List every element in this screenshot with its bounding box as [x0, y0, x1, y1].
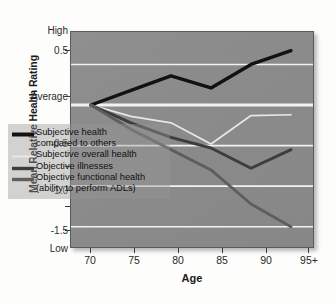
x-tick-mark-85: [222, 248, 223, 253]
y-tick-label-neg1-5: -1.5: [8, 225, 68, 236]
legend-label-0: Subjective health compared to others: [36, 127, 116, 148]
legend-swatch-cell-2: [10, 161, 36, 171]
chart-legend: Subjective health compared to others Sub…: [8, 124, 170, 199]
legend-label-2: Objective illnesses: [36, 161, 113, 172]
x-tick-label-80: 80: [158, 254, 198, 266]
y-tick-label-average: Average: [8, 91, 68, 102]
x-tick-mark-70: [90, 248, 91, 253]
series-line-0: [91, 51, 291, 105]
x-tick-label-95: 95+: [289, 254, 329, 266]
x-tick-mark-90: [266, 248, 267, 253]
x-tick-mark-95: [308, 248, 309, 253]
x-tick-label-75: 75: [114, 254, 154, 266]
x-tick-mark-75: [134, 248, 135, 253]
y-tick-label-low: Low: [8, 243, 68, 254]
x-tick-label-85: 85: [202, 254, 242, 266]
legend-line-icon-3: [12, 177, 34, 182]
y-tick-label-high: High: [8, 25, 68, 36]
legend-line-icon-1: [12, 154, 34, 159]
x-tick-label-70: 70: [70, 254, 110, 266]
legend-swatch-cell-3: [10, 172, 36, 182]
y-tick-label-0-5: 0.5: [8, 45, 68, 56]
legend-swatch-cell-0: [10, 127, 36, 137]
x-tick-label-90: 90: [246, 254, 286, 266]
legend-line-icon-0: [12, 132, 34, 137]
legend-label-1: Subjective overall health: [36, 149, 137, 160]
legend-label-3: Objective functional health (ability to …: [36, 172, 145, 193]
chart-figure: Mean Relative Health Rating High 0.5 Ave…: [0, 0, 336, 304]
x-axis-title: Age: [70, 272, 314, 284]
x-tick-mark-80: [178, 248, 179, 253]
legend-item-objective-illnesses: Objective illnesses: [10, 161, 168, 172]
legend-item-subjective-health-compared: Subjective health compared to others: [10, 127, 168, 148]
legend-item-subjective-overall-health: Subjective overall health: [10, 149, 168, 160]
legend-swatch-cell-1: [10, 149, 36, 159]
legend-line-icon-2: [12, 166, 34, 171]
legend-item-objective-functional-health: Objective functional health (ability to …: [10, 172, 168, 193]
